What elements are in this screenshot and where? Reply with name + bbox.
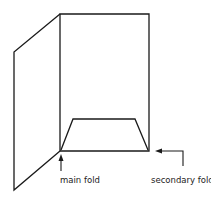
main-fold-arrow <box>59 154 64 171</box>
main-panel <box>60 14 149 151</box>
secondary-fold-label: secondary fold <box>151 175 211 185</box>
main-fold-label: main fold <box>60 175 100 185</box>
secondary-fold-trapezoid <box>61 119 148 150</box>
left-panel <box>14 14 60 190</box>
fold-diagram: main fold secondary fold <box>0 0 211 198</box>
secondary-fold-arrow <box>155 149 183 167</box>
